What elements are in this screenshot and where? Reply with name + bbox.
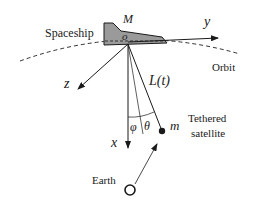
y-axis-label: y [202, 14, 211, 29]
x-axis-label: x [110, 135, 118, 150]
z-axis-label: z [63, 76, 70, 91]
satellite-label-line1: Tethered [188, 112, 227, 124]
phi-label: φ [130, 120, 137, 134]
spaceship-mass-label: M [122, 12, 134, 26]
tether-length-label: L(t) [148, 73, 170, 89]
satellite-mass-label: m [170, 118, 179, 133]
spaceship-label: Spaceship [45, 26, 94, 40]
orbit-label: Orbit [212, 61, 235, 73]
angle-arc [128, 112, 154, 117]
satellite-label-line2: satellite [191, 127, 225, 139]
earth-to-satellite-arrow [135, 144, 157, 184]
earth-circle [125, 185, 135, 195]
earth-label: Earth [92, 174, 116, 186]
tethered-satellite-diagram: Spaceship M o y z x Orbit L(t) φ θ m Tet… [0, 0, 254, 206]
theta-label: θ [144, 119, 150, 133]
satellite-dot [159, 128, 165, 134]
z-axis-arrow [78, 44, 128, 89]
origin-label: o [122, 30, 128, 42]
